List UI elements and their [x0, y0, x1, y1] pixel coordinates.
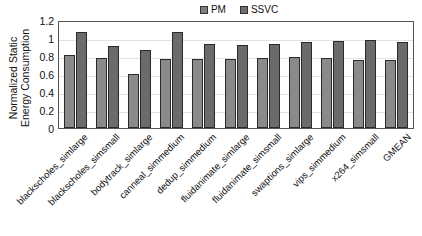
- bar-pm[interactable]: [128, 74, 139, 128]
- bar-pm[interactable]: [321, 58, 332, 128]
- legend-swatch-icon: [200, 6, 208, 14]
- y-axis-title-line-1: Normalized Static: [7, 37, 20, 119]
- bar-group: [252, 22, 284, 128]
- bar-ssvc[interactable]: [333, 41, 344, 128]
- bar-group: [317, 22, 349, 128]
- bar-ssvc[interactable]: [140, 50, 151, 128]
- y-axis-tick-label: 1.2: [39, 16, 54, 27]
- bar-ssvc[interactable]: [204, 44, 215, 128]
- bar-group: [220, 22, 252, 128]
- y-axis-tick-label: 0.4: [39, 88, 54, 99]
- legend-entry-ssvc[interactable]: SSVC: [240, 5, 278, 15]
- bar-pm[interactable]: [353, 60, 364, 128]
- x-axis-tick-labels: blackscholes_simlargeblackscholes_simsma…: [58, 131, 414, 235]
- bar-pm[interactable]: [96, 58, 107, 128]
- legend-label: SSVC: [251, 5, 278, 15]
- bar-pm[interactable]: [160, 59, 171, 128]
- bar-pm[interactable]: [257, 58, 268, 128]
- bar-group: [349, 22, 381, 128]
- bar-group: [284, 22, 316, 128]
- bar-ssvc[interactable]: [108, 46, 119, 128]
- y-axis-tick-label: 0.6: [39, 70, 54, 81]
- legend-swatch-icon: [240, 6, 248, 14]
- y-axis-tick-label: 0: [48, 124, 54, 135]
- bar-group: [91, 22, 123, 128]
- y-axis-tick-label: 0.2: [39, 106, 54, 117]
- bar-ssvc[interactable]: [269, 44, 280, 128]
- legend-label: PM: [211, 5, 226, 15]
- bar-ssvc[interactable]: [301, 42, 312, 128]
- bar-ssvc[interactable]: [76, 32, 87, 128]
- bar-ssvc[interactable]: [237, 45, 248, 128]
- bar-pm[interactable]: [289, 57, 300, 128]
- x-axis-tick-label: GMEAN: [381, 132, 413, 164]
- bar-pm[interactable]: [64, 55, 75, 128]
- bar-ssvc[interactable]: [397, 42, 408, 128]
- y-axis-tick-labels: 1.210.80.60.40.20: [30, 15, 56, 135]
- chart-legend: PMSSVC: [0, 2, 422, 18]
- chart-container: PMSSVC Normalized Static Energy Consumpt…: [0, 0, 422, 236]
- bar-ssvc[interactable]: [172, 32, 183, 128]
- bar-group: [381, 22, 413, 128]
- bar-pm[interactable]: [192, 59, 203, 128]
- y-axis-tick-label: 0.8: [39, 52, 54, 63]
- plot-area: [58, 21, 414, 129]
- bar-group: [188, 22, 220, 128]
- legend-entry-pm[interactable]: PM: [200, 5, 226, 15]
- bar-group: [59, 22, 91, 128]
- y-axis-tick-label: 1: [48, 34, 54, 45]
- bar-group: [123, 22, 155, 128]
- bar-pm[interactable]: [385, 60, 396, 128]
- bar-group: [156, 22, 188, 128]
- bar-pm[interactable]: [225, 59, 236, 128]
- bars-layer: [59, 22, 413, 128]
- bar-ssvc[interactable]: [365, 40, 376, 128]
